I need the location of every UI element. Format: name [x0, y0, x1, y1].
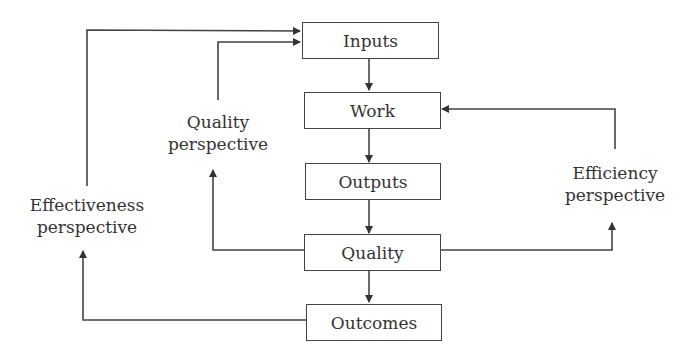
inputs-label: Inputs [343, 31, 398, 51]
outputs-box: Outputs [305, 163, 441, 200]
outputs-label: Outputs [338, 172, 407, 192]
outcomes-label: Outcomes [331, 313, 417, 333]
efficiency-perspective-label: Efficiency perspective [555, 162, 675, 206]
effectiveness-perspective-line1: Effectiveness [22, 194, 152, 216]
quality-label: Quality [341, 243, 403, 263]
effectiveness-perspective-label: Effectiveness perspective [22, 194, 152, 238]
quality-perspective-label: Quality perspective [158, 111, 278, 155]
work-label: Work [350, 101, 395, 121]
quality-perspective-line1: Quality [158, 111, 278, 133]
effectiveness-perspective-line2: perspective [22, 216, 152, 238]
work-box: Work [304, 92, 441, 129]
efficiency-perspective-line1: Efficiency [555, 162, 675, 184]
inputs-box: Inputs [302, 22, 439, 59]
outcomes-box: Outcomes [306, 304, 442, 341]
quality-perspective-line2: perspective [158, 133, 278, 155]
efficiency-perspective-line2: perspective [555, 184, 675, 206]
quality-box: Quality [304, 234, 441, 271]
